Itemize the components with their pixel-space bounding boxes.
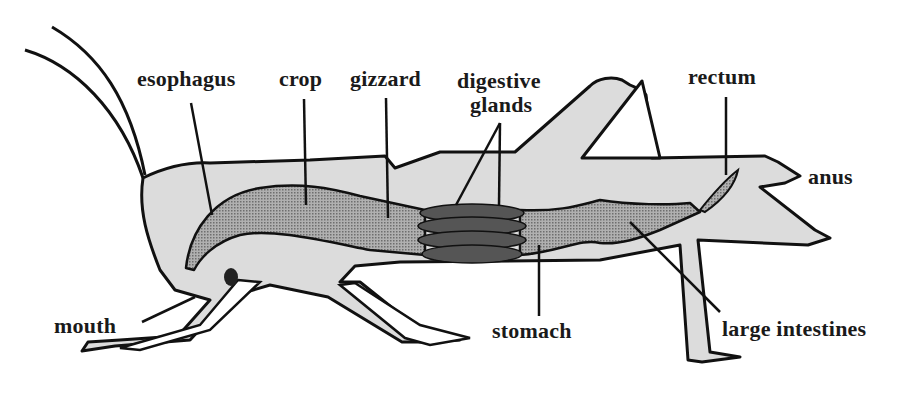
mandible [224, 268, 238, 286]
label-digestive: digestive [457, 70, 541, 92]
label-glands: glands [470, 94, 532, 116]
label-crop: crop [279, 68, 322, 90]
antennae [25, 27, 145, 178]
label-stomach: stomach [492, 320, 572, 342]
label-esophagus: esophagus [137, 68, 235, 90]
label-anus: anus [808, 166, 853, 188]
label-mouth: mouth [54, 315, 116, 337]
digestive-glands [418, 204, 526, 263]
label-rectum: rectum [688, 66, 756, 88]
label-large-intestines: large intestines [722, 318, 866, 340]
label-gizzard: gizzard [350, 68, 421, 90]
